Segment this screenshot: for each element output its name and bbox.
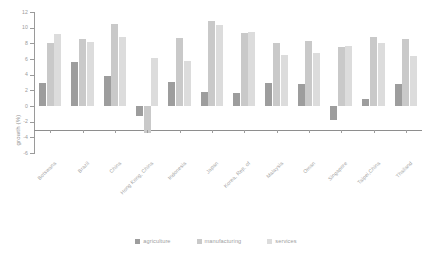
y-axis-tick <box>30 137 35 138</box>
legend-swatch-manufacturing <box>197 239 202 244</box>
y-axis-tick-label: 0 <box>8 103 28 109</box>
bar-services-thailand <box>410 56 417 106</box>
y-axis-tick <box>30 122 35 123</box>
bar-manufacturing-china <box>111 24 118 106</box>
y-axis-line <box>34 12 35 153</box>
x-axis-tick <box>277 130 278 133</box>
bar-agriculture-thailand <box>395 84 402 106</box>
x-axis-label-indonesia: Indonesia <box>166 160 187 181</box>
bar-manufacturing-taipei-china <box>370 37 377 106</box>
bar-agriculture-hong-kong-china <box>136 106 143 116</box>
x-axis-tick <box>180 130 181 133</box>
bar-services-brazil <box>87 42 94 106</box>
y-axis-tick <box>30 106 35 107</box>
chart-legend: agriculturemanufacturingservices <box>0 238 432 244</box>
bar-agriculture-singapore <box>330 106 337 120</box>
x-axis-label-botswana: Botswana <box>36 160 57 181</box>
x-axis-tick <box>212 130 213 133</box>
x-axis-tick <box>147 130 148 133</box>
bar-services-korea-rep-of <box>248 32 255 106</box>
x-axis-label-hong-kong-china: Hong Kong, China <box>119 160 154 195</box>
x-axis-label-singapore: Singapore <box>327 160 349 182</box>
bar-services-botswana <box>54 34 61 106</box>
legend-item-agriculture[interactable]: agriculture <box>135 238 170 244</box>
x-axis-label-taipei-china: Taipei,China <box>355 160 380 185</box>
bar-agriculture-china <box>104 76 111 106</box>
y-axis-tick <box>30 75 35 76</box>
bar-agriculture-japan <box>201 92 208 106</box>
y-axis-tick <box>30 59 35 60</box>
x-axis-label-malaysia: Malaysia <box>264 160 283 179</box>
y-axis-tick <box>30 153 35 154</box>
bar-agriculture-korea-rep-of <box>233 93 240 106</box>
x-axis-tick <box>309 130 310 133</box>
legend-label-manufacturing: manufacturing <box>205 238 242 244</box>
y-axis-tick-label: -4 <box>8 134 28 140</box>
legend-item-manufacturing[interactable]: manufacturing <box>197 238 242 244</box>
bar-agriculture-botswana <box>39 83 46 106</box>
bar-agriculture-taipei-china <box>362 99 369 106</box>
bar-manufacturing-botswana <box>47 43 54 106</box>
bar-manufacturing-indonesia <box>176 38 183 106</box>
x-axis-tick <box>50 130 51 133</box>
legend-swatch-services <box>267 239 272 244</box>
bar-services-singapore <box>345 46 352 106</box>
x-axis-tick <box>406 130 407 133</box>
legend-label-services: services <box>275 238 296 244</box>
y-axis-tick-label: 2 <box>8 87 28 93</box>
y-axis-tick <box>30 12 35 13</box>
bar-services-indonesia <box>184 61 191 106</box>
x-axis-tick <box>83 130 84 133</box>
x-axis-tick <box>244 130 245 133</box>
bar-services-china <box>119 37 126 106</box>
bar-services-taipei-china <box>378 43 385 106</box>
x-axis-label-thailand: Thailand <box>394 160 413 179</box>
y-axis-tick-label: 12 <box>8 9 28 15</box>
x-axis-label-japan: Japan <box>204 160 219 175</box>
bar-chart: growth (%) 121086420-2-4-6 BotswanaBrazi… <box>0 0 432 260</box>
x-axis-tick <box>115 130 116 133</box>
y-axis-tick-label: 6 <box>8 56 28 62</box>
bar-agriculture-malaysia <box>265 83 272 106</box>
bar-services-oman <box>313 53 320 106</box>
bar-manufacturing-malaysia <box>273 43 280 106</box>
y-axis-tick-label: 4 <box>8 71 28 77</box>
bar-manufacturing-singapore <box>338 47 345 106</box>
legend-label-agriculture: agriculture <box>143 238 170 244</box>
bar-manufacturing-thailand <box>402 39 409 106</box>
bar-manufacturing-oman <box>305 41 312 106</box>
legend-item-services[interactable]: services <box>267 238 296 244</box>
x-axis-label-brazil: Brazil <box>76 160 90 174</box>
y-axis-tick-label: 8 <box>8 40 28 46</box>
x-axis-label-oman: Oman <box>302 160 317 175</box>
x-axis-tick <box>374 130 375 133</box>
bar-manufacturing-brazil <box>79 39 86 106</box>
x-axis-label-korea-rep-of: Korea, Rep. of <box>223 160 252 189</box>
y-axis-tick-label: -6 <box>8 150 28 156</box>
y-axis-tick <box>30 90 35 91</box>
bar-agriculture-brazil <box>71 62 78 106</box>
y-axis-tick <box>30 43 35 44</box>
bar-agriculture-indonesia <box>168 82 175 106</box>
bar-services-malaysia <box>281 55 288 106</box>
x-axis-tick <box>341 130 342 133</box>
x-axis-zero-line <box>34 130 422 131</box>
bar-manufacturing-korea-rep-of <box>241 33 248 106</box>
legend-swatch-agriculture <box>135 239 140 244</box>
y-axis-tick-label: -2 <box>8 118 28 124</box>
bar-services-japan <box>216 25 223 106</box>
y-axis-tick-label: 10 <box>8 24 28 30</box>
bar-agriculture-oman <box>298 84 305 106</box>
x-axis-label-china: China <box>108 160 122 174</box>
y-axis-tick <box>30 28 35 29</box>
bar-manufacturing-japan <box>208 21 215 106</box>
bar-services-hong-kong-china <box>151 58 158 106</box>
